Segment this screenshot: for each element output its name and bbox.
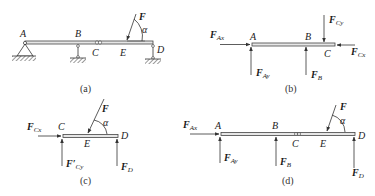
label-alpha: α <box>340 115 346 126</box>
label-point-a: A <box>249 31 257 42</box>
beam-cd <box>63 135 118 138</box>
caption-a: (a) <box>80 83 91 95</box>
label-point-b: B <box>305 31 311 42</box>
label-point-c: C <box>92 47 99 58</box>
hinge-c-icon-2 <box>98 41 101 44</box>
hinge-c-icon <box>295 133 298 136</box>
label-fd: FD <box>351 167 364 180</box>
label-fd: FD <box>120 161 133 174</box>
force-f-arrow-icon <box>127 14 136 40</box>
label-force-f: F <box>339 101 347 112</box>
label-point-c: C <box>292 138 299 149</box>
label-force-f: F <box>138 11 146 22</box>
label-alpha: α <box>142 24 148 35</box>
label-fcy-prime: F′Cy <box>65 158 84 171</box>
panel-a: F α A B C E D (a) <box>12 11 165 95</box>
label-point-d: D <box>357 130 366 141</box>
label-force-f: F <box>101 103 109 114</box>
label-fay: FAy <box>255 67 271 80</box>
beam-diagram: F α A B C E D (a) FAx FAy FB FCy FCx A B… <box>0 0 375 196</box>
label-point-e: E <box>319 138 326 149</box>
label-point-a: A <box>19 28 27 39</box>
label-fcy: FCy <box>328 14 344 27</box>
hinge-c-icon-2 <box>298 133 301 136</box>
beam-abcd <box>221 133 355 136</box>
label-fcx: FCx <box>26 121 42 134</box>
beam-abc <box>252 43 335 46</box>
panel-c: FCx F′Cy FD F α C E D (c) <box>26 99 133 187</box>
beam-abcd <box>25 41 153 44</box>
label-point-d: D <box>156 44 165 55</box>
label-fax: FAx <box>209 29 225 42</box>
label-fay: FAy <box>223 152 239 165</box>
caption-c: (c) <box>80 175 91 187</box>
label-fb: FB <box>279 156 292 169</box>
label-point-e: E <box>119 47 126 58</box>
label-fcx: FCx <box>350 46 366 59</box>
caption-d: (d) <box>282 175 294 187</box>
force-f-arrow-icon <box>327 105 336 131</box>
label-point-c: C <box>324 48 331 59</box>
label-point-c: C <box>58 121 65 132</box>
roller-support-b-icon <box>70 44 86 63</box>
label-point-b: B <box>75 28 81 39</box>
label-point-b: B <box>272 120 278 131</box>
caption-b: (b) <box>285 83 297 95</box>
label-fb: FB <box>310 69 323 82</box>
label-point-d: D <box>120 130 129 141</box>
label-point-e: E <box>83 138 90 149</box>
panel-b: FAx FAy FB FCy FCx A B C (b) <box>209 14 366 95</box>
label-point-a: A <box>214 120 222 131</box>
panel-d: FAx FAy FB FD F α A B C E D (d) <box>182 101 366 187</box>
label-fax: FAx <box>182 119 198 132</box>
label-alpha: α <box>103 117 109 128</box>
